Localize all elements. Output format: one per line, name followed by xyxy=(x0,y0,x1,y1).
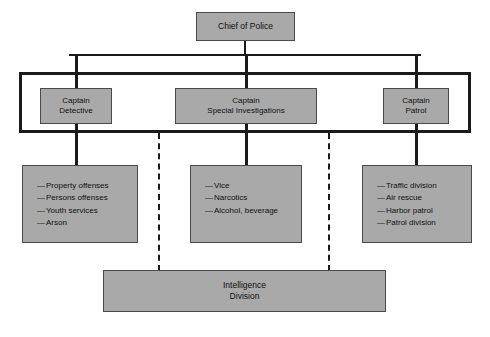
node-intelligence-division[interactable]: Intelligence Division xyxy=(103,270,386,312)
special-investigations-functions-list: Vice Narcotics Alcohol, beverage xyxy=(205,180,301,217)
connector-dashed-left-to-intelligence xyxy=(158,133,160,271)
connector-dashed-right-to-intelligence xyxy=(328,133,330,271)
patrol-functions-list: Traffic division Air rescue Harbor patro… xyxy=(377,180,471,230)
node-captain-detective-label: Captain Detective xyxy=(59,96,92,116)
list-item: Youth services xyxy=(37,205,137,217)
list-item: Harbor patrol xyxy=(377,205,471,217)
list-item: Air rescue xyxy=(377,192,471,204)
connector-bar-to-captain-special-investigations xyxy=(245,54,248,89)
node-captain-special-investigations-label: Captain Special Investigations xyxy=(207,96,284,116)
list-item: Arson xyxy=(37,217,137,229)
list-item: Traffic division xyxy=(377,180,471,192)
node-intelligence-division-label: Intelligence Division xyxy=(223,280,266,301)
connector-captain-patrol-to-functions xyxy=(415,123,418,166)
connector-bar-to-captain-patrol xyxy=(415,54,418,89)
list-item: Alcohol, beverage xyxy=(205,205,301,217)
org-chart-canvas: Chief of Police Captain Detective Captai… xyxy=(0,0,490,337)
list-item: Vice xyxy=(205,180,301,192)
connector-captain-special-investigations-to-functions xyxy=(245,123,248,166)
list-item: Patrol division xyxy=(377,217,471,229)
list-item: Property offenses xyxy=(37,180,137,192)
node-special-investigations-functions[interactable]: Vice Narcotics Alcohol, beverage xyxy=(190,165,302,243)
node-patrol-functions[interactable]: Traffic division Air rescue Harbor patro… xyxy=(362,165,472,243)
connector-bar-to-captain-detective xyxy=(75,54,78,89)
connector-captain-detective-to-functions xyxy=(75,123,78,166)
node-captain-detective[interactable]: Captain Detective xyxy=(40,88,112,124)
node-chief-of-police[interactable]: Chief of Police xyxy=(196,12,295,41)
node-chief-of-police-label: Chief of Police xyxy=(218,21,273,32)
node-detective-functions[interactable]: Property offenses Persons offenses Youth… xyxy=(22,165,138,243)
list-item: Narcotics xyxy=(205,192,301,204)
list-item: Persons offenses xyxy=(37,192,137,204)
node-captain-patrol[interactable]: Captain Patrol xyxy=(383,88,449,124)
node-captain-special-investigations[interactable]: Captain Special Investigations xyxy=(175,88,317,124)
node-captain-patrol-label: Captain Patrol xyxy=(402,96,430,116)
detective-functions-list: Property offenses Persons offenses Youth… xyxy=(37,180,137,230)
